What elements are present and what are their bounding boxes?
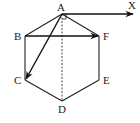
edge-de xyxy=(62,80,99,101)
hexagon-diagram: A B C D E F X xyxy=(0,0,140,123)
label-d: D xyxy=(58,103,66,115)
label-e: E xyxy=(103,74,110,86)
edge-cd xyxy=(25,80,62,101)
edge-fa xyxy=(62,14,99,36)
label-x: X xyxy=(128,0,136,11)
vector-ac xyxy=(26,14,62,79)
label-f: F xyxy=(103,30,109,42)
label-a: A xyxy=(57,1,65,13)
label-b: B xyxy=(14,30,21,42)
label-c: C xyxy=(14,74,21,86)
